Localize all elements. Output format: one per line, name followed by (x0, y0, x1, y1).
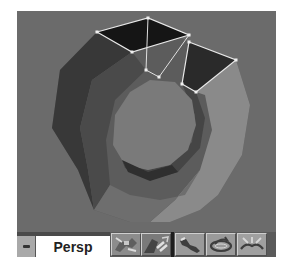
3d-viewport[interactable] (17, 11, 276, 232)
zoom-icon (142, 234, 170, 255)
mesh-render (17, 11, 276, 232)
orbit-view-button[interactable] (206, 233, 236, 256)
move-icon (112, 234, 140, 255)
minimize-viewport-button[interactable] (17, 236, 36, 257)
toolbar-separator (171, 232, 174, 257)
fit-icon (238, 234, 266, 255)
pan-view-button[interactable] (175, 233, 205, 256)
pan-icon (176, 234, 204, 255)
zoom-view-button[interactable] (141, 233, 171, 256)
fit-view-button[interactable] (237, 233, 267, 256)
viewport-toolbar: Persp (17, 232, 276, 257)
view-label[interactable]: Persp (36, 236, 110, 257)
move-view-button[interactable] (111, 233, 141, 256)
minus-icon (23, 245, 30, 248)
orbit-icon (207, 234, 235, 255)
